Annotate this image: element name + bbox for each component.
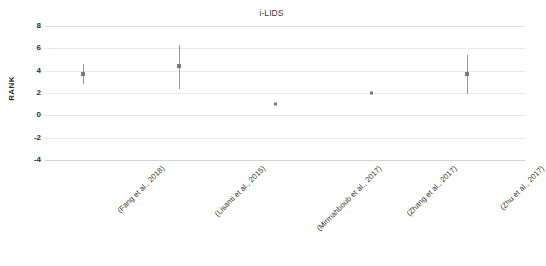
data-marker[interactable] [274,103,277,106]
gridline-4 [45,71,525,72]
plot-area [45,26,525,160]
y-tick-label-6: 6 [11,44,41,52]
x-axis-tick-labels: (Fang et al., 2018)(Lisanti et al., 2015… [45,160,525,266]
gridline-2 [45,93,525,94]
data-marker[interactable] [465,72,469,76]
y-tick-label--4: -4 [11,156,41,164]
gridline--2 [45,138,525,139]
gridline-8 [45,26,525,27]
y-tick-label-0: 0 [11,111,41,119]
data-marker[interactable] [81,72,85,76]
x-tick-label: (Zhu et al., 2017) [498,164,546,212]
y-axis-tick-labels: 86420-2-4 [8,26,41,160]
gridline-0 [45,115,525,116]
x-tick-label: (Fang et al., 2018) [115,164,166,215]
data-marker[interactable] [177,64,181,68]
chart-title: i-LIDS [0,8,543,18]
gridline-6 [45,48,525,49]
x-tick-label: (Mirmahboub et al., 2017) [315,164,384,233]
x-tick-label: (Lisanti et al., 2015) [213,164,267,218]
y-tick-label-8: 8 [11,22,41,30]
x-tick-label: (Zhang et al., 2017) [405,164,459,218]
y-tick-label-4: 4 [11,67,41,75]
data-marker[interactable] [370,92,373,95]
y-tick-label--2: -2 [11,134,41,142]
y-tick-label-2: 2 [11,89,41,97]
